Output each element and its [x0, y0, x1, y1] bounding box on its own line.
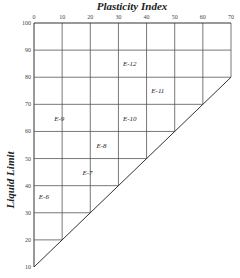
x-tick-label: 50: [172, 14, 178, 20]
x-tick-label: 20: [87, 14, 93, 20]
x-tick-label: 0: [33, 14, 36, 20]
y-tick-label: 10: [25, 264, 31, 270]
y-axis-label: Liquid Limit: [4, 150, 16, 209]
zone-label: E-10: [122, 115, 137, 123]
y-tick-label: 40: [25, 183, 31, 189]
x-tick-label: 60: [200, 14, 206, 20]
y-tick-label: 60: [25, 128, 31, 134]
x-tick-label: 40: [144, 14, 150, 20]
x-tick-label: 70: [228, 14, 234, 20]
x-tick-label: 30: [115, 14, 121, 20]
zone-labels: E-6E-7E-8E-9E-10E-11E-12: [38, 60, 165, 201]
zone-label: E-7: [81, 169, 93, 177]
chart-title: Plasticity Index: [97, 0, 168, 12]
y-axis-ticks: 100908070605040302010: [22, 20, 31, 270]
zone-label: E-6: [38, 193, 50, 201]
y-tick-label: 50: [25, 156, 31, 162]
y-tick-label: 100: [22, 20, 31, 26]
y-tick-label: 90: [25, 47, 31, 53]
zone-label: E-8: [95, 142, 107, 150]
y-tick-label: 80: [25, 74, 31, 80]
zone-label: E-11: [150, 87, 164, 95]
y-tick-label: 70: [25, 101, 31, 107]
zone-label: E-9: [53, 115, 65, 123]
x-axis-ticks: 010203040506070: [33, 14, 235, 20]
zone-label: E-12: [122, 60, 137, 68]
x-tick-label: 10: [59, 14, 65, 20]
y-tick-label: 30: [25, 210, 31, 216]
plasticity-chart: Plasticity Index 010203040506070 1009080…: [0, 0, 240, 278]
boundary-line: [34, 77, 231, 267]
y-tick-label: 20: [25, 237, 31, 243]
